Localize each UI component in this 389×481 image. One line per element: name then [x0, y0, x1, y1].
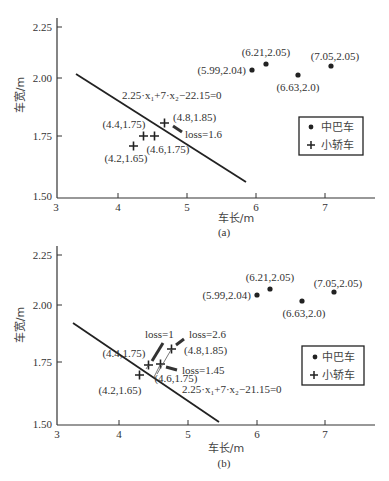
loss-annotation: loss=2.6 — [189, 328, 227, 340]
legend: 中巴车 小轿车 — [299, 117, 363, 155]
x-tick-label: 4 — [115, 201, 121, 213]
loss-annotation: loss=1 — [145, 328, 174, 340]
point-label: (7.05,2.05) — [314, 277, 363, 290]
legend-dot-icon — [309, 125, 314, 130]
y-axis-label: 车宽/m — [13, 307, 27, 343]
y-tick-label: 2.25 — [33, 21, 53, 33]
point-label: (5.99,2.04) — [202, 289, 251, 302]
x-tick-label: 6 — [254, 428, 260, 440]
point-label: (4.8,1.85) — [173, 111, 216, 124]
y-ticks — [57, 255, 62, 362]
x-tick-label: 5 — [185, 428, 191, 440]
point-label: (4.2,1.65) — [98, 384, 141, 397]
y-tick-label: 2.00 — [33, 299, 53, 311]
point-label: (6.63,2.0) — [276, 81, 319, 94]
x-tick-label: 7 — [322, 201, 328, 213]
y-tick-label: 1.75 — [33, 356, 53, 368]
point-label: (7.05,2.05) — [311, 50, 360, 63]
point-label: (4.4,1.75) — [102, 118, 145, 131]
y-tick-label: 1.50 — [33, 190, 53, 202]
loss-arrow — [173, 126, 182, 132]
legend-label: 小轿车 — [321, 138, 354, 152]
point-label: (4.2,1.65) — [104, 152, 147, 165]
loss-arrow — [152, 343, 163, 361]
point-label: (4.6,1.75) — [146, 143, 189, 156]
x-tick-label: 5 — [184, 201, 190, 213]
x-tick-label: 4 — [116, 428, 122, 440]
y-tick-label: 2.25 — [33, 249, 53, 261]
panel-caption: (a) — [218, 226, 231, 239]
point-label: (4.8,1.85) — [184, 344, 227, 357]
x-axis-label: 车长/m — [208, 441, 244, 455]
point-label: (6.63,2.0) — [282, 307, 325, 320]
loss-annotation: loss=1.6 — [185, 128, 223, 140]
panel-b: 2.25 2.00 1.75 1.50 3 4 5 6 7 车长/m 车宽/m … — [13, 246, 375, 470]
bus-points — [249, 61, 333, 77]
point-label: (4.4,1.75) — [102, 347, 145, 360]
x-ticks — [119, 420, 325, 425]
x-tick-label: 7 — [322, 428, 328, 440]
legend-label: 小轿车 — [322, 368, 355, 382]
x-tick-label: 3 — [53, 201, 59, 213]
y-tick-label: 2.00 — [33, 72, 53, 84]
legend: 中巴车 小轿车 — [302, 346, 364, 385]
point-label: (6.21,2.05) — [242, 46, 291, 59]
y-tick-label: 1.50 — [33, 418, 53, 430]
x-tick-label: 3 — [54, 428, 60, 440]
figure: 2.25 2.00 1.75 1.50 3 4 5 6 7 车长/m 车宽/m … — [0, 0, 389, 481]
legend-label: 中巴车 — [321, 120, 354, 134]
y-ticks — [57, 27, 62, 136]
x-axis-label: 车长/m — [218, 211, 254, 225]
legend-label: 中巴车 — [322, 350, 355, 364]
legend-dot-icon — [313, 355, 318, 360]
line-equation-label: 2.25·x₁+7·x₂−21.15=0 — [182, 383, 282, 395]
loss-annotation: loss=1.45 — [182, 364, 225, 376]
point-label: (6.21,2.05) — [246, 271, 295, 284]
panel-caption: (b) — [218, 457, 231, 470]
y-tick-label: 1.75 — [33, 130, 53, 142]
x-ticks — [118, 193, 325, 198]
line-equation-label: 2.25·x₁+7·x₂−22.15=0 — [122, 89, 222, 101]
loss-arrow — [176, 339, 184, 345]
point-label: (5.99,2.04) — [197, 64, 246, 77]
y-axis-label: 车宽/m — [13, 77, 27, 113]
loss-arrow — [166, 367, 177, 370]
panel-a: 2.25 2.00 1.75 1.50 3 4 5 6 7 车长/m 车宽/m … — [13, 18, 375, 239]
